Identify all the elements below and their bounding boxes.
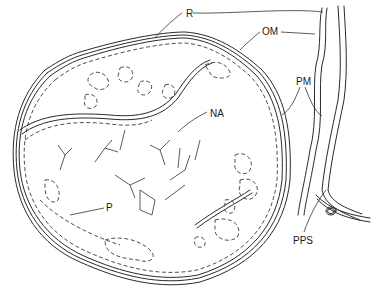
right-vessels: [298, 6, 370, 222]
label-r: R: [186, 9, 193, 19]
label-pm: PM: [296, 77, 311, 87]
outer-capsule: [13, 32, 290, 285]
granular-clusters: [45, 62, 257, 261]
label-na: NA: [210, 109, 224, 119]
label-pps: PPS: [293, 236, 313, 246]
label-p: P: [106, 203, 113, 213]
label-om: OM: [262, 27, 278, 37]
inner-boundary: [20, 60, 252, 245]
fibrils: [58, 130, 200, 215]
diagram-drawing: [0, 0, 378, 286]
